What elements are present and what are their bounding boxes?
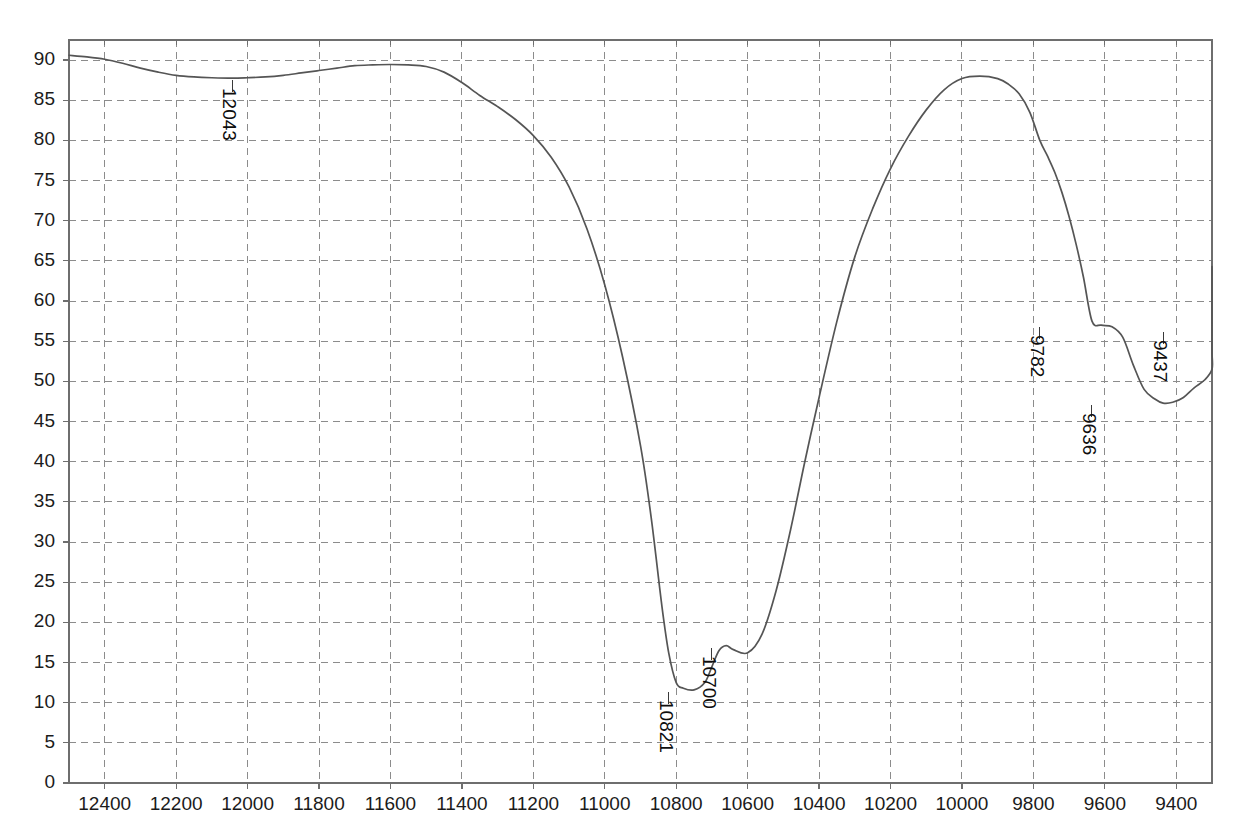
y-axis-tick-label: 65 [11, 249, 55, 271]
annotation-leader-lines [232, 80, 1163, 704]
y-axis-tick-label: 25 [11, 570, 55, 592]
x-axis-tick-label: 9400 [1136, 793, 1216, 815]
y-axis-tick-label: 5 [11, 731, 55, 753]
x-axis-tick-label: 11000 [565, 793, 645, 815]
x-axis-tick-label: 11800 [279, 793, 359, 815]
plot-frame [69, 40, 1212, 783]
y-axis-tick-label: 55 [11, 329, 55, 351]
peak-label-10821: 10821 [655, 700, 677, 753]
x-axis-tick-label: 11400 [422, 793, 502, 815]
x-axis-tick-label: 10000 [922, 793, 1002, 815]
y-axis-tick-label: 35 [11, 490, 55, 512]
y-axis-tick-label: 40 [11, 450, 55, 472]
x-axis-tick-label: 10800 [636, 793, 716, 815]
y-axis-tick-label: 90 [11, 48, 55, 70]
peak-label-9782: 9782 [1026, 335, 1048, 377]
axis-ticks [63, 40, 1176, 789]
peak-label-9636: 9636 [1078, 413, 1100, 455]
peak-label-12043: 12043 [218, 88, 240, 141]
spectrum-chart-root: 908580757065605550454035302520151050 124… [0, 0, 1244, 839]
y-axis-tick-label: 15 [11, 651, 55, 673]
y-axis-tick-label: 50 [11, 369, 55, 391]
y-axis-tick-label: 70 [11, 209, 55, 231]
y-axis-tick-label: 75 [11, 169, 55, 191]
x-axis-tick-label: 10400 [779, 793, 859, 815]
x-axis-tick-label: 11600 [350, 793, 430, 815]
y-axis-tick-label: 85 [11, 88, 55, 110]
x-axis-tick-label: 10200 [851, 793, 931, 815]
y-axis-tick-label: 45 [11, 410, 55, 432]
x-axis-tick-label: 9800 [993, 793, 1073, 815]
y-axis-tick-label: 80 [11, 128, 55, 150]
y-axis-tick-label: 60 [11, 289, 55, 311]
x-axis-tick-label: 12000 [208, 793, 288, 815]
x-axis-tick-label: 12200 [136, 793, 216, 815]
y-axis-tick-label: 30 [11, 530, 55, 552]
y-axis-tick-label: 0 [11, 771, 55, 793]
x-axis-tick-label: 9600 [1065, 793, 1145, 815]
x-axis-tick-label: 10600 [708, 793, 788, 815]
peak-label-9437: 9437 [1149, 340, 1171, 382]
peak-label-10700: 10700 [698, 656, 720, 709]
spectrum-plot-svg [0, 0, 1244, 839]
y-axis-tick-label: 20 [11, 610, 55, 632]
gridlines-group [69, 40, 1212, 783]
x-axis-tick-label: 11200 [493, 793, 573, 815]
y-axis-tick-label: 10 [11, 691, 55, 713]
x-axis-tick-label: 12400 [65, 793, 145, 815]
